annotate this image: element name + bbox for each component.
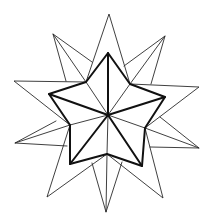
outer-rib-left-lower <box>15 125 70 143</box>
outer-rib-upper-left <box>53 34 86 82</box>
rib-center-tip-right <box>108 97 165 115</box>
rib-center-valley-1 <box>108 84 130 115</box>
rib-center-valley-3 <box>107 115 108 154</box>
center-point <box>106 113 110 117</box>
outer-tip-right-upper <box>130 84 199 128</box>
outer-rib-bottom <box>106 154 107 212</box>
outer-tip-upper-right <box>124 36 165 84</box>
outer-tip-left-lower <box>15 121 67 146</box>
outer-tip-upper-left <box>53 34 92 81</box>
rib-center-valley-2 <box>108 115 145 128</box>
rib-center-tip-lower-left <box>70 115 108 164</box>
rib-center-tip-left <box>49 94 108 115</box>
outer-rib-right-lower <box>145 128 199 148</box>
star-diagram <box>0 0 212 223</box>
inner-star-ribs <box>49 53 165 166</box>
outer-rib-upper-right <box>130 36 165 84</box>
outer-tip-lower-left <box>47 125 107 197</box>
